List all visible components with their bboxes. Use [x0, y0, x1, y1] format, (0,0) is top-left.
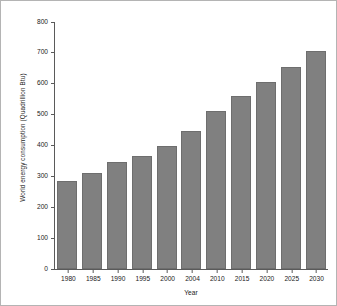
x-axis-tick: 2030 — [309, 269, 324, 282]
bar — [231, 96, 251, 269]
y-axis-tick-label: 700 — [37, 48, 48, 55]
plot-area: 0100200300400500600700800 19801985199019… — [54, 22, 328, 270]
bar — [132, 156, 152, 269]
bar — [306, 51, 326, 269]
bar — [256, 82, 276, 269]
bar — [82, 173, 102, 269]
x-axis-tick: 2015 — [235, 269, 250, 282]
y-axis-tick-label: 100 — [37, 234, 48, 241]
bar-chart-figure: World energy consumption (Quadrillion Bt… — [0, 0, 337, 306]
x-axis-tick: 1995 — [136, 269, 151, 282]
x-axis-tick-mark — [118, 269, 119, 273]
y-axis-title: World energy consumption (Quadrillion Bt… — [15, 1, 29, 273]
y-axis-tick-label: 0 — [44, 265, 48, 272]
x-axis-tick-label: 2020 — [260, 275, 275, 282]
x-axis-tick-mark — [217, 269, 218, 273]
x-axis-tick-label: 2025 — [284, 275, 299, 282]
x-axis-tick-label: 1990 — [111, 275, 126, 282]
x-axis-title: Year — [54, 289, 328, 296]
x-axis-tick-label: 1980 — [61, 275, 76, 282]
bar — [181, 131, 201, 269]
bar — [57, 181, 77, 269]
x-axis-tick: 2025 — [284, 269, 299, 282]
x-axis-tick-mark — [192, 269, 193, 273]
x-axis-tick-mark — [291, 269, 292, 273]
x-axis-tick-label: 1995 — [136, 275, 151, 282]
y-axis-tick-label: 200 — [37, 203, 48, 210]
x-axis-tick-label: 2000 — [160, 275, 175, 282]
bar — [157, 146, 177, 269]
y-axis-title-text: World energy consumption (Quadrillion Bt… — [19, 73, 26, 201]
x-axis-tick-mark — [316, 269, 317, 273]
bar-series — [55, 22, 328, 269]
x-axis-tick-mark — [93, 269, 94, 273]
x-axis-tick-mark — [266, 269, 267, 273]
x-axis-tick-mark — [242, 269, 243, 273]
bar — [206, 111, 226, 269]
y-axis-tick-label: 800 — [37, 18, 48, 25]
x-axis-tick-label: 2004 — [185, 275, 200, 282]
bar — [281, 67, 301, 269]
y-axis-tick-label: 300 — [37, 172, 48, 179]
x-axis-tick-label: 2010 — [210, 275, 225, 282]
x-axis-tick: 2010 — [210, 269, 225, 282]
x-axis-tick-mark — [68, 269, 69, 273]
x-axis-tick: 2000 — [160, 269, 175, 282]
x-axis-tick: 1980 — [61, 269, 76, 282]
y-axis-tick-label: 600 — [37, 79, 48, 86]
x-axis-tick: 2004 — [185, 269, 200, 282]
x-axis-tick-label: 1985 — [86, 275, 101, 282]
x-axis-tick-mark — [142, 269, 143, 273]
bar — [107, 162, 127, 269]
x-axis-tick: 1985 — [86, 269, 101, 282]
y-axis-tick-label: 400 — [37, 141, 48, 148]
x-axis-tick-label: 2015 — [235, 275, 250, 282]
y-axis-tick-label: 500 — [37, 110, 48, 117]
x-axis-tick: 1990 — [111, 269, 126, 282]
x-axis-tick-mark — [167, 269, 168, 273]
x-axis-tick-label: 2030 — [309, 275, 324, 282]
x-axis-tick: 2020 — [260, 269, 275, 282]
